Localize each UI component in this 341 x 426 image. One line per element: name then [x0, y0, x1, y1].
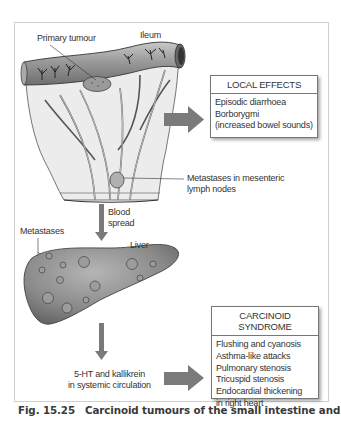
local-effects-title: LOCAL EFFECTS [211, 76, 317, 94]
figure-number: Fig. 15.25 [18, 404, 75, 416]
syndrome-item: Pulmonary stenosis [216, 363, 314, 375]
mesenteric-metastases-line2: lymph nodes [187, 184, 284, 195]
local-effects-list: Episodic diarrhoea Borborygmi (increased… [211, 94, 317, 135]
liver-label: Liver [130, 240, 149, 251]
syndrome-item: Endocardial thickening [216, 386, 314, 398]
carcinoid-syndrome-box: CARCINOID SYNDROME Flushing and cyanosis… [211, 306, 319, 399]
ileum-label: Ileum [140, 30, 161, 41]
blood-spread-arrow [95, 204, 108, 241]
metastases-label: Metastases [20, 226, 64, 237]
local-effect-item: (increased bowel sounds) [215, 120, 313, 132]
local-effect-item: Borborygmi [215, 109, 313, 121]
syndrome-item: Asthma-like attacks [216, 351, 314, 363]
circulation-arrow [95, 323, 108, 360]
local-effect-item: Episodic diarrhoea [215, 97, 313, 109]
local-effects-box: LOCAL EFFECTS Episodic diarrhoea Borbory… [210, 75, 318, 138]
circulation-label: 5-HT and kallikrein in systemic circulat… [68, 369, 151, 391]
liver [24, 244, 179, 324]
syndrome-item: Tricuspid stenosis [216, 374, 314, 386]
circulation-line1: 5-HT and kallikrein [68, 369, 151, 380]
blood-spread-line2: spread [108, 218, 134, 229]
primary-tumour-label: Primary tumour [37, 33, 96, 44]
mesenteric-metastases-line1: Metastases in mesenteric [187, 173, 284, 184]
circulation-line2: in systemic circulation [68, 380, 151, 391]
syndrome-arrow [164, 365, 204, 391]
figure-caption: Fig. 15.25Carcinoid tumours of the small… [18, 404, 340, 416]
blood-spread-label: Blood spread [108, 207, 134, 229]
syndrome-item: Flushing and cyanosis [216, 339, 314, 351]
mesenteric-metastases-label: Metastases in mesenteric lymph nodes [187, 173, 284, 195]
blood-spread-line1: Blood [108, 207, 134, 218]
figure-caption-text: Carcinoid tumours of the small intestine… [85, 404, 340, 416]
carcinoid-syndrome-list: Flushing and cyanosis Asthma-like attack… [212, 336, 318, 413]
carcinoid-syndrome-title: CARCINOID SYNDROME [212, 307, 318, 336]
